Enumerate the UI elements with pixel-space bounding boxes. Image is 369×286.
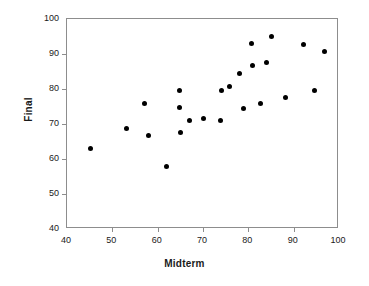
x-axis-tick bbox=[112, 227, 113, 232]
x-axis-tick-label: 60 bbox=[142, 236, 172, 245]
plot-area bbox=[66, 18, 338, 228]
data-point bbox=[177, 88, 182, 93]
data-point bbox=[178, 130, 183, 135]
data-point bbox=[201, 116, 206, 121]
data-point bbox=[218, 118, 223, 123]
y-axis-tick-label: 90 bbox=[35, 49, 59, 58]
x-axis-tick-label: 90 bbox=[278, 236, 308, 245]
data-point bbox=[227, 84, 232, 89]
scatter-chart: Final Midterm 40506070809010040506070809… bbox=[0, 0, 369, 286]
data-point bbox=[88, 146, 93, 151]
y-axis-tick-label: 40 bbox=[35, 224, 59, 233]
x-axis-tick-label: 40 bbox=[51, 236, 81, 245]
data-point bbox=[177, 105, 182, 110]
x-axis-tick bbox=[203, 227, 204, 232]
y-axis-tick bbox=[62, 124, 67, 125]
x-axis-tick bbox=[158, 227, 159, 232]
data-point bbox=[142, 101, 147, 106]
data-point bbox=[258, 101, 263, 106]
data-point bbox=[312, 88, 317, 93]
data-point bbox=[219, 88, 224, 93]
y-axis-tick-label: 50 bbox=[35, 189, 59, 198]
data-point bbox=[241, 106, 246, 111]
y-axis-tick bbox=[62, 89, 67, 90]
y-axis-tick bbox=[62, 54, 67, 55]
data-point bbox=[124, 126, 129, 131]
y-axis-tick-label: 60 bbox=[35, 154, 59, 163]
y-axis-tick bbox=[62, 194, 67, 195]
data-point bbox=[187, 118, 192, 123]
x-axis-tick bbox=[294, 227, 295, 232]
data-point bbox=[264, 60, 269, 65]
y-axis-tick-label: 100 bbox=[35, 14, 59, 23]
y-axis-title: Final bbox=[23, 90, 34, 130]
data-point bbox=[301, 42, 306, 47]
x-axis-tick-label: 80 bbox=[232, 236, 262, 245]
y-axis-tick bbox=[62, 159, 67, 160]
x-axis-tick-label: 70 bbox=[187, 236, 217, 245]
x-axis-title: Midterm bbox=[0, 258, 369, 269]
y-axis-tick-label: 70 bbox=[35, 119, 59, 128]
data-point bbox=[269, 34, 274, 39]
data-point bbox=[249, 41, 254, 46]
y-axis-tick-label: 80 bbox=[35, 84, 59, 93]
x-axis-tick-label: 50 bbox=[96, 236, 126, 245]
x-axis-tick-label: 100 bbox=[323, 236, 353, 245]
data-point bbox=[164, 164, 169, 169]
data-point bbox=[146, 133, 151, 138]
data-point bbox=[322, 49, 327, 54]
data-point bbox=[283, 95, 288, 100]
data-point bbox=[250, 63, 255, 68]
data-point bbox=[237, 71, 242, 76]
x-axis-tick bbox=[248, 227, 249, 232]
